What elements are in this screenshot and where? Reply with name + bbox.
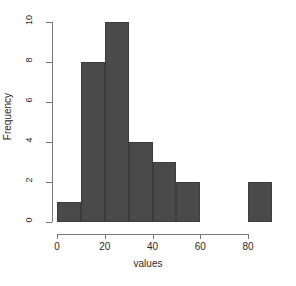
y-axis-tick-label: 4 xyxy=(16,135,42,145)
histogram-bar xyxy=(105,22,129,222)
y-axis-tick-label-text: 2 xyxy=(24,177,34,182)
y-axis-tick-label: 8 xyxy=(16,55,42,65)
histogram-plot: 0246810 020406080 values Frequency xyxy=(0,0,296,286)
histogram-bar xyxy=(176,182,200,222)
y-axis-tick-label: 2 xyxy=(16,175,42,185)
y-axis-tick-label-text: 0 xyxy=(24,217,34,222)
y-axis-tick xyxy=(46,222,52,223)
plot-area xyxy=(52,22,276,222)
x-axis-tick-label: 40 xyxy=(133,241,173,252)
y-axis-tick xyxy=(46,62,52,63)
y-axis-tick-label-text: 10 xyxy=(24,15,34,25)
y-axis-tick xyxy=(46,182,52,183)
y-axis-tick-label: 0 xyxy=(16,215,42,225)
y-axis-tick xyxy=(46,22,52,23)
x-axis-tick xyxy=(248,234,249,239)
histogram-bar xyxy=(57,202,81,222)
histogram-bar xyxy=(81,62,105,222)
y-axis-tick xyxy=(46,102,52,103)
x-axis-tick xyxy=(105,234,106,239)
x-axis-tick-label: 60 xyxy=(180,241,220,252)
x-axis-tick-label: 20 xyxy=(85,241,125,252)
x-axis-tick-label: 0 xyxy=(37,241,77,252)
y-axis-tick-label: 6 xyxy=(16,95,42,105)
x-axis-tick-label: 80 xyxy=(228,241,268,252)
y-axis-tick-label: 10 xyxy=(16,15,42,25)
y-axis-tick-label-text: 4 xyxy=(24,137,34,142)
y-axis-tick xyxy=(46,142,52,143)
y-axis-tick-label-text: 8 xyxy=(24,57,34,62)
x-axis-tick xyxy=(57,234,58,239)
y-axis-tick-label-text: 6 xyxy=(24,97,34,102)
y-axis-title: Frequency xyxy=(2,77,13,157)
x-axis-tick xyxy=(200,234,201,239)
x-axis-title: values xyxy=(0,258,296,269)
y-axis-line xyxy=(52,22,53,222)
histogram-bar xyxy=(129,142,153,222)
x-axis-tick xyxy=(153,234,154,239)
histogram-bar xyxy=(153,162,177,222)
histogram-bar xyxy=(248,182,272,222)
